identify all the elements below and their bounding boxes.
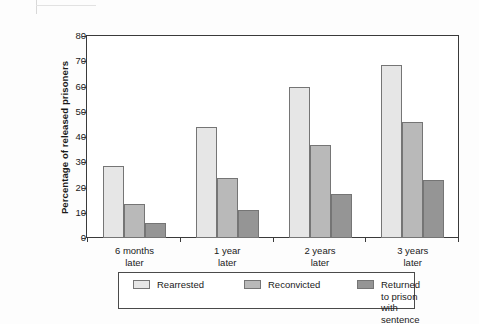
bar <box>196 127 217 238</box>
legend-swatch-icon <box>357 280 374 289</box>
bar <box>331 194 352 238</box>
bar <box>124 204 145 238</box>
x-axis-tick-mark <box>273 238 274 242</box>
legend-label: Returned to prison with sentence <box>381 279 420 324</box>
legend: RearrestedReconvictedReturned to prison … <box>118 272 415 309</box>
bar-group <box>273 36 366 238</box>
x-axis-tick-mark <box>458 238 459 242</box>
legend-label: Reconvicted <box>268 279 320 291</box>
bars-layer <box>87 36 458 238</box>
legend-entry: Reconvicted <box>244 279 320 291</box>
bar <box>381 65 402 238</box>
bar <box>238 210 259 238</box>
y-axis-tick-mark <box>82 238 86 239</box>
x-axis-tick-label-line2: later <box>358 257 468 269</box>
bar <box>289 87 310 239</box>
legend-entry: Returned to prison with sentence <box>357 279 420 324</box>
x-axis-tick-mark <box>365 238 366 242</box>
scan-artifact-horizontal <box>36 5 96 6</box>
bar <box>103 166 124 238</box>
x-axis-tick-mark <box>180 238 181 242</box>
legend-swatch-icon <box>244 280 261 289</box>
x-axis-tick-mark <box>87 238 88 242</box>
legend-label: Rearrested <box>157 279 204 291</box>
bar-chart-figure: Percentage of released prisoners 8070605… <box>0 0 479 324</box>
legend-entry: Rearrested <box>133 279 204 291</box>
bar-group <box>180 36 273 238</box>
bar-group <box>365 36 458 238</box>
bar <box>217 178 238 238</box>
legend-swatch-icon <box>133 280 150 289</box>
bar <box>402 122 423 238</box>
bar <box>310 145 331 238</box>
x-axis-tick-label: 3 yearslater <box>358 245 468 268</box>
bar-group <box>87 36 180 238</box>
x-axis-tick-label-line1: 3 years <box>358 245 468 257</box>
scan-artifact-vertical <box>36 0 37 14</box>
bar <box>423 180 444 238</box>
bar <box>145 223 166 238</box>
